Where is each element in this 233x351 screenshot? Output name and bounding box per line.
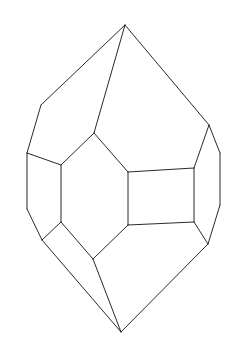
crystal-edge-hex_top-hex_top_left — [61, 133, 94, 165]
crystal-edge-top_apex-right_shoulder — [125, 25, 209, 125]
crystal-edge-hex_bottom_left-left_bottom — [42, 222, 61, 240]
crystal-edge-left_shoulder-left_upper — [27, 105, 41, 153]
crystal-edge-hex_bottom-bottom_apex — [93, 259, 121, 332]
crystal-edge-rect_top_left-rect_top_right — [128, 168, 194, 172]
crystal-edge-hex_top-rect_top_left — [94, 133, 128, 172]
crystal-edge-left_bottom-bottom_apex — [42, 240, 121, 332]
crystal-edge-rect_bottom_left-hex_bottom — [93, 225, 128, 259]
crystal-edge-rect_top_right-right_shoulder — [194, 125, 209, 168]
crystal-edge-left_upper-hex_top_left — [27, 153, 61, 165]
crystal-edge-right_shoulder-right_upper — [209, 125, 220, 153]
crystal-edge-right_lower-right_bottom — [208, 205, 220, 244]
crystal-edge-top_apex-left_shoulder — [41, 25, 125, 105]
crystal-diagram — [0, 0, 233, 351]
crystal-edge-top_apex-hex_top — [94, 25, 125, 133]
crystal-edge-right_bottom-bottom_apex — [121, 244, 208, 332]
crystal-drawing — [0, 0, 233, 351]
crystal-edges — [27, 25, 220, 332]
crystal-edge-hex_bottom_left-hex_bottom — [61, 222, 93, 259]
crystal-edge-rect_bottom_right-right_bottom — [194, 222, 208, 244]
crystal-edge-rect_bottom_right-rect_bottom_left — [128, 222, 194, 225]
crystal-edge-left_lower-left_bottom — [27, 209, 42, 240]
